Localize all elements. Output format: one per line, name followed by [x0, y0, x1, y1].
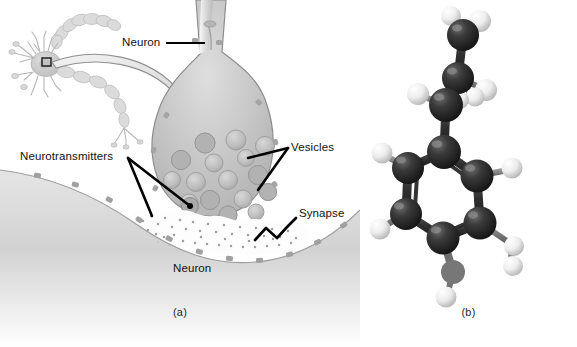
- label-neuron-bottom: Neuron: [173, 262, 211, 275]
- label-synapse: Synapse: [299, 207, 344, 220]
- carbon-atom: [390, 19, 497, 255]
- label-vesicles: Vesicles: [291, 141, 334, 154]
- label-neurotransmitters: Neurotransmitters: [20, 150, 113, 163]
- figure-root: Neuron Neurotransmitters Vesicles Synaps…: [0, 0, 577, 347]
- panel-b-caption: (b): [360, 306, 577, 318]
- substituent-atom: [441, 260, 465, 284]
- panel-a-caption: (a): [0, 306, 360, 318]
- panel-b-molecule: (b): [360, 0, 577, 347]
- panel-a-synapse: Neuron Neurotransmitters Vesicles Synaps…: [0, 0, 360, 347]
- neuron-cell-icon: [9, 12, 143, 149]
- ball-and-stick-model: [360, 0, 577, 347]
- synapse-illustration: [0, 0, 360, 347]
- label-neuron-top: Neuron: [122, 36, 160, 49]
